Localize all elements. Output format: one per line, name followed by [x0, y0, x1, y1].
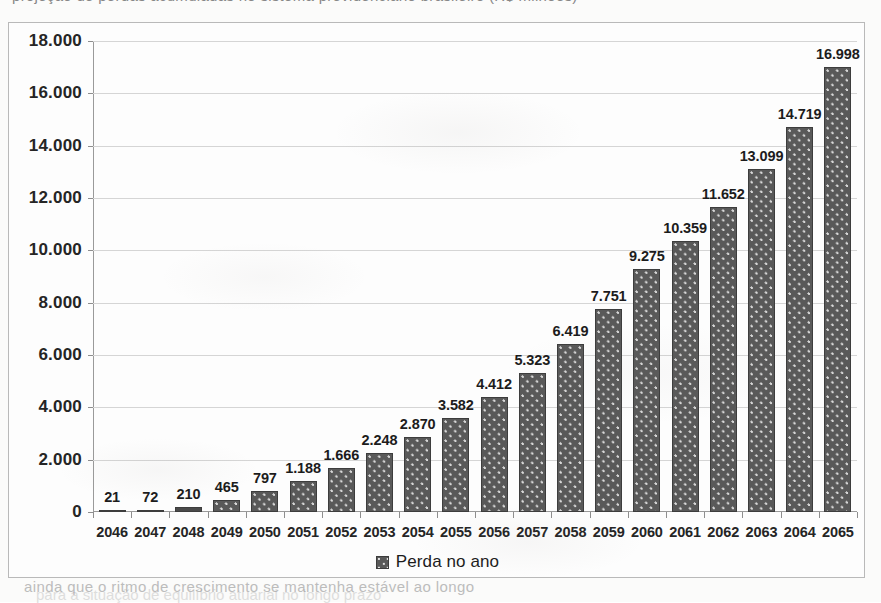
bar-value-label: 4.412: [476, 376, 512, 392]
x-tick-mark: [284, 512, 285, 518]
bar-group[interactable]: 13.099: [748, 41, 775, 512]
chart-frame: 02.0004.0006.0008.00010.00012.00014.0001…: [8, 22, 865, 578]
bar[interactable]: [633, 269, 660, 512]
bar-group[interactable]: 21: [99, 41, 126, 512]
bar-value-label: 2.248: [362, 432, 398, 448]
page-bleed-bottom: ainda que o ritmo de crescimento se mant…: [0, 580, 881, 602]
x-tick-label: 2063: [746, 524, 778, 540]
bleed-top-text: projeção de perdas acumuladas no sistema…: [12, 0, 578, 4]
x-tick-label: 2062: [707, 524, 739, 540]
bar[interactable]: [481, 397, 508, 512]
bar-group[interactable]: 5.323: [519, 41, 546, 512]
bar-value-label: 2.870: [400, 416, 436, 432]
bar[interactable]: [213, 500, 240, 512]
x-tick-mark: [169, 512, 170, 518]
y-tick-label: 18.000: [29, 31, 82, 51]
x-tick-label: 2057: [516, 524, 548, 540]
bar-value-label: 13.099: [740, 148, 784, 164]
y-tick-label: 14.000: [29, 136, 82, 156]
x-tick-mark: [322, 512, 323, 518]
y-tick-label: 0: [72, 502, 82, 522]
bar-value-label: 5.323: [514, 352, 550, 368]
bar-series: 21722104657971.1881.6662.2482.8703.5824.…: [93, 41, 857, 512]
bar[interactable]: [595, 309, 622, 512]
x-tick-mark: [628, 512, 629, 518]
bar[interactable]: [175, 507, 202, 512]
y-tick-label: 10.000: [29, 240, 82, 260]
x-tick-label: 2054: [402, 524, 434, 540]
bar-group[interactable]: 6.419: [557, 41, 584, 512]
bar-value-label: 1.188: [285, 460, 321, 476]
bar[interactable]: [137, 510, 164, 512]
y-tick-label: 16.000: [29, 83, 82, 103]
bar-group[interactable]: 3.582: [442, 41, 469, 512]
x-tick-mark: [819, 512, 820, 518]
x-tick-label: 2055: [440, 524, 472, 540]
x-tick-mark: [93, 512, 94, 518]
x-tick-mark: [208, 512, 209, 518]
bar-group[interactable]: 14.719: [786, 41, 813, 512]
bar-group[interactable]: 72: [137, 41, 164, 512]
bar[interactable]: [99, 510, 126, 512]
bar-value-label: 210: [177, 486, 201, 502]
bar-group[interactable]: 7.751: [595, 41, 622, 512]
bar-value-label: 10.359: [663, 220, 707, 236]
bar[interactable]: [710, 207, 737, 512]
x-tick-label: 2059: [593, 524, 625, 540]
bar[interactable]: [519, 373, 546, 512]
x-tick-label: 2064: [784, 524, 816, 540]
y-tick-label: 8.000: [38, 293, 82, 313]
bar-value-label: 72: [142, 489, 158, 505]
bar[interactable]: [404, 437, 431, 512]
bar-group[interactable]: 2.870: [404, 41, 431, 512]
x-tick-mark: [513, 512, 514, 518]
bar[interactable]: [366, 453, 393, 512]
x-tick-label: 2046: [96, 524, 128, 540]
bar-group[interactable]: 2.248: [366, 41, 393, 512]
x-tick-mark: [475, 512, 476, 518]
bar-group[interactable]: 11.652: [710, 41, 737, 512]
bar-value-label: 3.582: [438, 397, 474, 413]
bar[interactable]: [672, 241, 699, 512]
bar[interactable]: [251, 491, 278, 512]
x-tick-label: 2056: [478, 524, 510, 540]
bar[interactable]: [748, 169, 775, 512]
bar-group[interactable]: 1.666: [328, 41, 355, 512]
bar-value-label: 1.666: [323, 447, 359, 463]
x-tick-mark: [551, 512, 552, 518]
x-tick-label: 2061: [669, 524, 701, 540]
bar-value-label: 14.719: [778, 106, 822, 122]
bar-value-label: 21: [104, 489, 120, 505]
bar[interactable]: [290, 481, 317, 512]
x-tick-label: 2048: [173, 524, 205, 540]
patterned-square-marker: [376, 556, 389, 569]
bar-group[interactable]: 465: [213, 41, 240, 512]
bar-group[interactable]: 10.359: [672, 41, 699, 512]
page-bleed-top: projeção de perdas acumuladas no sistema…: [0, 0, 881, 12]
bar-group[interactable]: 797: [251, 41, 278, 512]
bar-group[interactable]: 9.275: [633, 41, 660, 512]
x-tick-mark: [704, 512, 705, 518]
x-tick-mark: [590, 512, 591, 518]
x-tick-mark: [399, 512, 400, 518]
bar-group[interactable]: 16.998: [824, 41, 851, 512]
bar-group[interactable]: 1.188: [290, 41, 317, 512]
bar[interactable]: [442, 418, 469, 512]
legend-label: Perda no ano: [396, 552, 499, 572]
bar-value-label: 9.275: [629, 248, 665, 264]
x-tick-mark: [781, 512, 782, 518]
x-tick-mark: [246, 512, 247, 518]
bar[interactable]: [328, 468, 355, 512]
bar[interactable]: [557, 344, 584, 512]
x-tick-label: 2051: [287, 524, 319, 540]
bleed-bottom-text: ainda que o ritmo de crescimento se mant…: [24, 580, 475, 595]
x-tick-label: 2058: [555, 524, 587, 540]
x-tick-mark: [437, 512, 438, 518]
bar-group[interactable]: 210: [175, 41, 202, 512]
bar-value-label: 11.652: [702, 186, 745, 202]
bar[interactable]: [824, 67, 851, 512]
y-tick-label: 12.000: [29, 188, 82, 208]
bar[interactable]: [786, 127, 813, 512]
bar-group[interactable]: 4.412: [481, 41, 508, 512]
bar-value-label: 6.419: [553, 323, 589, 339]
